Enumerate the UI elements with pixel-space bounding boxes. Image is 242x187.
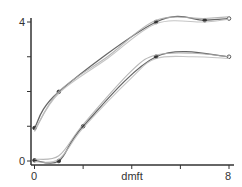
- series-line: [35, 53, 230, 160]
- series-line: [35, 16, 230, 128]
- series-lower-smooth-b: [35, 56, 230, 162]
- series-lower-fitted: [33, 52, 231, 164]
- x-axis-label: dmft: [121, 170, 142, 182]
- series-line: [35, 56, 230, 162]
- y-tick-label-max: 4: [19, 16, 25, 28]
- line-chart: 4 0 0 8 dmft: [0, 0, 242, 187]
- series-lower-smooth-a: [35, 53, 230, 160]
- x-tick-label-max: 8: [225, 170, 231, 182]
- y-tick-label-min: 0: [19, 155, 25, 167]
- series-line: [35, 52, 230, 164]
- series-layer: [33, 16, 231, 163]
- x-tick-label-min: 0: [31, 170, 37, 182]
- series-upper-fitted: [33, 16, 231, 129]
